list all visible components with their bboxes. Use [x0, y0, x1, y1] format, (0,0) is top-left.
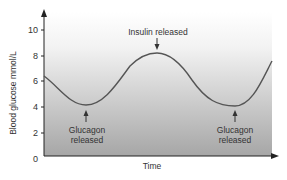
glucagon-right-label-line2: released [219, 135, 252, 145]
glucagon-left-label-line1: Glucagon [69, 125, 106, 135]
x-axis-title: Time [143, 161, 162, 171]
y-tick-2: 2 [33, 128, 38, 138]
y-axis-title: Blood glucose mmol/L [8, 51, 18, 135]
y-tick-4: 4 [33, 102, 38, 112]
y-tick-0: 0 [33, 154, 38, 164]
y-tick-6: 6 [33, 76, 38, 86]
x-axis-arrow-icon [271, 153, 279, 159]
y-tick-10: 10 [28, 25, 38, 35]
glucagon-left-label-line2: released [71, 135, 104, 145]
insulin-label: Insulin released [128, 27, 188, 37]
glucagon-right-label-line1: Glucagon [217, 125, 254, 135]
y-tick-8: 8 [33, 51, 38, 61]
glucose-chart: 10 8 6 4 2 0 Blood glucose mmol/L Time I… [0, 0, 287, 180]
